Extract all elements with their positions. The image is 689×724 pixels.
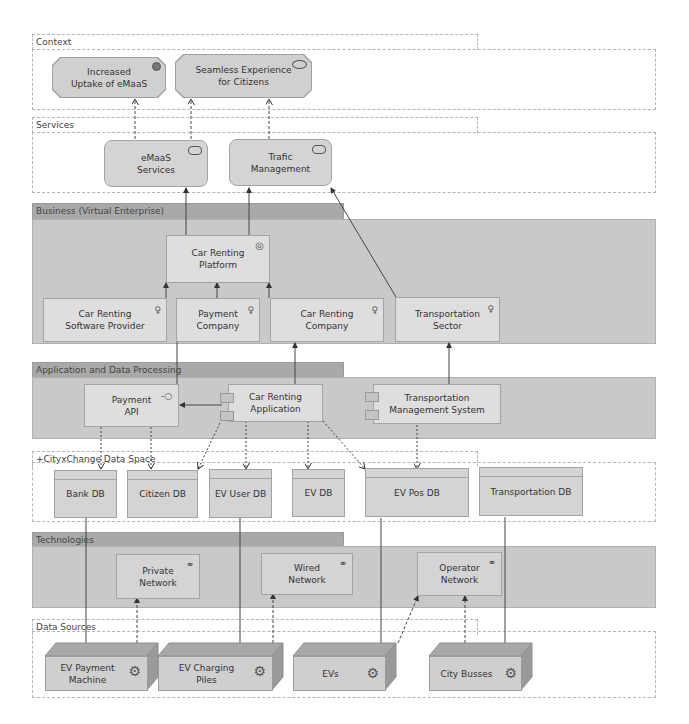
device-3d-faces (0, 0, 689, 724)
device-ev-payment-machine[interactable]: EV PaymentMachine ⚙ (45, 656, 148, 691)
device-label-line1: EV Payment (60, 662, 114, 674)
device-city-busses[interactable]: City Busses ⚙ (429, 656, 522, 691)
equipment-icon: ⚙ (366, 668, 379, 678)
device-ev-charging-piles[interactable]: EV ChargingPiles ⚙ (158, 656, 273, 691)
equipment-icon: ⚙ (504, 668, 517, 678)
device-label-line2: Machine (60, 674, 114, 686)
device-label-line1: EVs (322, 668, 339, 680)
equipment-icon: ⚙ (128, 666, 141, 676)
device-label-line1: EV Charging (179, 662, 234, 674)
equipment-icon: ⚙ (253, 666, 266, 676)
device-label-line1: City Busses (441, 668, 493, 680)
device-label-line2: Piles (179, 674, 234, 686)
device-evs[interactable]: EVs ⚙ (293, 656, 386, 691)
